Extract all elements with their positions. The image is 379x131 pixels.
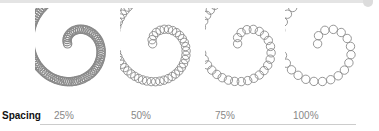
sample-label-100: 100% <box>293 110 319 121</box>
sample-label-75: 75% <box>215 110 235 121</box>
spiral-sample-75 <box>205 8 280 103</box>
sample-label-25: 25% <box>54 110 74 121</box>
corner-tab <box>363 0 373 7</box>
spiral-sample-25 <box>35 8 110 103</box>
baseline-rule <box>40 124 356 125</box>
spiral-sample-50 <box>120 8 195 103</box>
spiral-sample-100 <box>285 8 360 103</box>
top-border <box>0 0 370 3</box>
spacing-row-label: Spacing <box>2 110 41 121</box>
sample-label-50: 50% <box>131 110 151 121</box>
